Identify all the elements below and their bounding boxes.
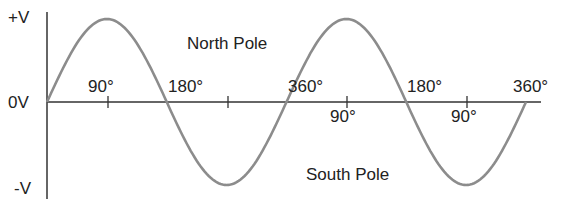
y-label-negative: -V — [14, 180, 31, 197]
north-pole-label: North Pole — [187, 35, 267, 52]
angle-label: 90° — [330, 108, 356, 125]
angle-label: 360° — [513, 78, 548, 95]
diagram-canvas — [0, 0, 565, 209]
angle-label: 360° — [288, 78, 323, 95]
south-pole-label: South Pole — [306, 166, 389, 183]
angle-label: 180° — [407, 78, 442, 95]
y-label-positive: +V — [8, 9, 29, 26]
angle-label: 90° — [451, 108, 477, 125]
sine-wave-diagram: +V 0V -V North Pole South Pole 90°180°36… — [0, 0, 565, 209]
y-label-zero: 0V — [8, 94, 29, 111]
angle-label: 180° — [168, 78, 203, 95]
angle-label: 90° — [88, 78, 114, 95]
